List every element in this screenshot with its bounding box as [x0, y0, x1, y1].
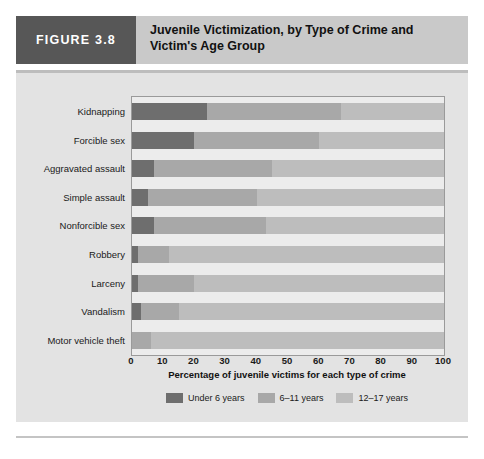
bar-segment	[132, 217, 154, 234]
y-axis-label: Robbery	[0, 246, 132, 263]
bar-segment	[319, 132, 444, 149]
x-axis-ticks: 0102030405060708090100	[131, 355, 445, 369]
y-axis-label: Vandalism	[0, 303, 132, 320]
x-tick-label: 30	[219, 355, 230, 366]
bar-segment	[207, 103, 341, 120]
figure-number-tag: FIGURE 3.8	[16, 16, 136, 64]
stacked-bar	[132, 275, 444, 292]
legend-swatch	[166, 393, 183, 403]
bar-segment	[266, 217, 444, 234]
bar-segment	[154, 160, 273, 177]
bar-segment	[138, 246, 169, 263]
y-axis-label: Larceny	[0, 275, 132, 292]
bar-segment	[179, 303, 444, 320]
x-tick-label: 50	[282, 355, 293, 366]
x-tick-label: 90	[407, 355, 418, 366]
bar-row: Larceny	[132, 269, 444, 298]
stacked-bar	[132, 132, 444, 149]
bar-segment	[194, 132, 319, 149]
bar-segment	[151, 332, 444, 349]
legend-swatch	[336, 393, 353, 403]
bar-segment	[341, 103, 444, 120]
y-axis-label: Nonforcible sex	[0, 217, 132, 234]
bar-row: Robbery	[132, 240, 444, 269]
bar-row: Simple assault	[132, 183, 444, 212]
x-tick-label: 80	[375, 355, 386, 366]
bar-segment	[257, 189, 444, 206]
bar-segment	[169, 246, 444, 263]
bar-segment	[132, 189, 148, 206]
footer-rule	[16, 436, 468, 438]
legend-item: 6–11 years	[258, 393, 324, 403]
x-tick-label: 10	[157, 355, 168, 366]
bar-segment	[272, 160, 444, 177]
stacked-bar	[132, 303, 444, 320]
x-tick-label: 70	[344, 355, 355, 366]
bar-segment	[141, 303, 178, 320]
x-tick-label: 20	[188, 355, 199, 366]
x-tick-label: 40	[251, 355, 262, 366]
x-axis-title: Percentage of juvenile victims for each …	[131, 369, 443, 380]
chart-panel: KidnappingForcible sexAggravated assault…	[16, 70, 468, 422]
bar-segment	[132, 160, 154, 177]
legend-label: 12–17 years	[358, 393, 408, 403]
stacked-bar	[132, 217, 444, 234]
y-axis-label: Forcible sex	[0, 132, 132, 149]
y-axis-label: Kidnapping	[0, 103, 132, 120]
panel-top-rule	[16, 70, 468, 73]
bar-segment	[132, 303, 141, 320]
stacked-bar	[132, 103, 444, 120]
x-tick-label: 0	[128, 355, 133, 366]
bar-row: Aggravated assault	[132, 154, 444, 183]
y-axis-label: Aggravated assault	[0, 160, 132, 177]
stacked-bar	[132, 332, 444, 349]
bar-row: Nonforcible sex	[132, 211, 444, 240]
bar-row: Kidnapping	[132, 97, 444, 126]
legend-label: Under 6 years	[188, 393, 245, 403]
bar-segment	[194, 275, 444, 292]
figure-header: FIGURE 3.8 Juvenile Victimization, by Ty…	[16, 16, 468, 64]
bar-row: Vandalism	[132, 297, 444, 326]
figure-container: FIGURE 3.8 Juvenile Victimization, by Ty…	[0, 0, 484, 459]
bar-segment	[132, 103, 207, 120]
y-axis-label: Motor vehicle theft	[0, 332, 132, 349]
plot-area: KidnappingForcible sexAggravated assault…	[131, 96, 445, 356]
chart-legend: Under 6 years6–11 years12–17 years	[131, 390, 443, 406]
stacked-bar	[132, 160, 444, 177]
stacked-bar	[132, 246, 444, 263]
x-tick-label: 60	[313, 355, 324, 366]
figure-title: Juvenile Victimization, by Type of Crime…	[150, 23, 455, 54]
bar-segment	[132, 332, 151, 349]
legend-label: 6–11 years	[280, 393, 324, 403]
bar-rows: KidnappingForcible sexAggravated assault…	[132, 97, 444, 355]
bar-segment	[148, 189, 257, 206]
x-tick-label: 100	[435, 355, 451, 366]
legend-item: Under 6 years	[166, 393, 245, 403]
bar-row: Motor vehicle theft	[132, 326, 444, 355]
legend-item: 12–17 years	[336, 393, 408, 403]
y-axis-label: Simple assault	[0, 189, 132, 206]
bar-segment	[154, 217, 266, 234]
bar-segment	[132, 132, 194, 149]
legend-swatch	[258, 393, 275, 403]
bar-segment	[138, 275, 194, 292]
stacked-bar	[132, 189, 444, 206]
bar-row: Forcible sex	[132, 126, 444, 155]
